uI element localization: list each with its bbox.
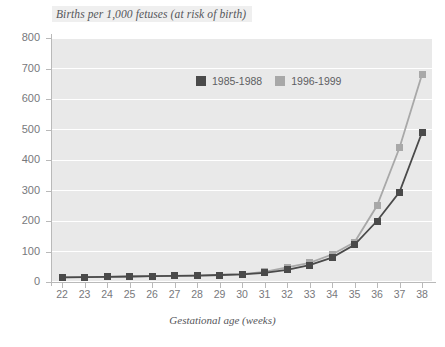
data-point-marker [329,254,336,261]
data-point-marker [374,218,381,225]
data-point-marker [81,274,88,281]
data-point-marker [396,144,403,151]
series-1996-1999 [59,71,426,281]
data-point-marker [216,272,223,279]
data-point-marker [149,273,156,280]
data-point-marker [126,273,133,280]
data-point-marker [396,189,403,196]
data-point-marker [351,241,358,248]
data-series-layer [0,0,445,347]
data-point-marker [171,272,178,279]
series-1985-1988 [59,129,426,281]
series-line [62,133,422,278]
data-point-marker [261,269,268,276]
data-point-marker [59,274,66,281]
data-point-marker [239,271,246,278]
data-point-marker [104,273,111,280]
chart-container: Births per 1,000 fetuses (at risk of bir… [0,0,445,347]
data-point-marker [194,272,201,279]
series-line [62,75,422,278]
x-axis-title: Gestational age (weeks) [0,314,445,326]
data-point-marker [419,129,426,136]
data-point-marker [284,266,291,273]
data-point-marker [306,262,313,269]
data-point-marker [419,71,426,78]
data-point-marker [374,202,381,209]
